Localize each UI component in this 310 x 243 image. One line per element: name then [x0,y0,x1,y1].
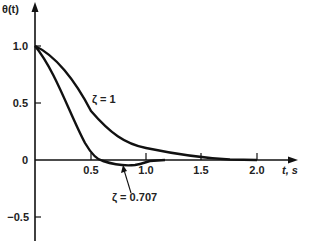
y-tick-label: 1.0 [13,40,28,52]
zeta-0707-label: ζ = 0.707 [112,191,157,204]
zeta-1-label: ζ = 1 [92,93,116,106]
step-response-chart: 1.0 0.5 0 −0.5 0.5 1.0 1.5 2.0 θ(t) t, s… [0,0,310,243]
x-tick-label: 2.0 [249,164,264,176]
y-tick-label: 0.5 [13,97,28,109]
x-axis-arrow-icon [288,157,298,164]
curve-zeta-1 [35,46,257,160]
y-tick-label: −0.5 [7,211,29,223]
y-tick-label: 0 [22,154,28,166]
x-tick-label: 1.0 [138,164,153,176]
y-ticks [35,46,41,217]
x-axis-label: t, s [282,164,298,176]
y-axis-label: θ(t) [2,3,19,15]
y-axis-arrow-icon [32,2,39,12]
x-tick-label: 0.5 [83,164,98,176]
x-tick-label: 1.5 [193,164,208,176]
annotation-arrow-line [124,170,131,193]
